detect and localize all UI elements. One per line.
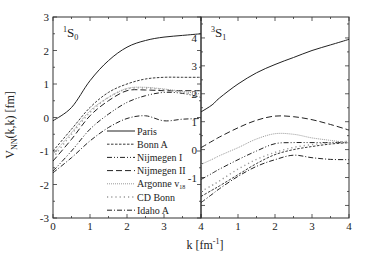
y-tick-label: 3 <box>192 60 198 72</box>
series-bonn-a <box>201 143 349 197</box>
x-tick-label: 2 <box>124 220 130 232</box>
x-tick-label: 1 <box>235 220 241 232</box>
x-tick-label: 3 <box>309 220 315 232</box>
series-paris <box>201 39 349 112</box>
x-tick-label: 4 <box>198 220 204 232</box>
legend-label: Argonne v18 <box>137 178 185 190</box>
y-tick-label: -2 <box>40 179 49 191</box>
panel-label: 3S1 <box>211 25 226 42</box>
y-axis-label: VNN(k,k) [fm] <box>3 91 19 159</box>
panel-label: 1S0 <box>63 25 78 42</box>
x-tick-label: 3 <box>161 220 167 232</box>
y-tick-label: 1 <box>192 116 198 128</box>
x-tick-label: 4 <box>346 220 352 232</box>
series-argonne-v18 <box>201 133 349 164</box>
y-tick-label: 0 <box>44 112 50 124</box>
y-tick-label: -3 <box>40 212 50 224</box>
x-axis-label: k [fm-1] <box>187 237 224 252</box>
y-tick-label: 2 <box>192 88 198 100</box>
legend-label: CD Bonn <box>137 192 175 203</box>
y-tick-label: 1 <box>44 78 50 90</box>
x-tick-label: 0 <box>50 220 56 232</box>
y-tick-label: 0 <box>192 144 198 156</box>
series-cd-bonn <box>53 88 201 158</box>
legend-label: Nijmegen I <box>137 152 182 163</box>
x-tick-label: 1 <box>87 220 93 232</box>
legend-label: Paris <box>137 126 157 137</box>
y-tick-label: 3 <box>44 11 50 23</box>
nn-potential-figure: 01234-3-2-101231S0 1234-1012343S1 ParisB… <box>0 0 370 259</box>
y-tick-label: 2 <box>44 45 50 57</box>
chart-canvas: 01234-3-2-101231S0 1234-1012343S1 ParisB… <box>0 0 370 259</box>
y-tick-label: -1 <box>40 145 49 157</box>
plot-frame <box>201 17 349 218</box>
y-tick-label: -1 <box>188 172 197 184</box>
legend-label: Bonn A <box>137 139 169 150</box>
legend: ParisBonn ANijmegen INijmegen IIArgonne … <box>107 126 186 216</box>
y-tick-label: 4 <box>192 32 198 44</box>
x-tick-label: 2 <box>272 220 278 232</box>
panel-1s0: 01234-3-2-101231S0 <box>40 11 204 232</box>
series-nijmegen-i <box>201 143 349 180</box>
legend-label: Nijmegen II <box>137 165 186 176</box>
panel-3s1: 1234-1012343S1 <box>188 17 352 232</box>
legend-label: Idaho A <box>137 205 170 216</box>
